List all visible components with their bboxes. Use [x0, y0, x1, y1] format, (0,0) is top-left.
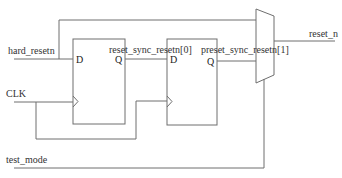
reset-sync-1-label: preset_sync_resetn[1]: [201, 44, 289, 55]
ff2-q-pin-label: Q: [207, 56, 215, 67]
test-mode-wire: [14, 79, 264, 168]
ff1-q-pin-label: Q: [115, 54, 123, 65]
ff2-d-pin-label: D: [170, 54, 177, 65]
reset-synchronizer-diagram: hard_resetn CLK test_mode reset_sync_res…: [0, 0, 342, 178]
test-mode-label: test_mode: [6, 154, 48, 165]
ff1-clock-triangle-icon: [73, 96, 78, 107]
ff1-d-pin-label: D: [76, 54, 83, 65]
ff2-clock-triangle-icon: [167, 96, 172, 107]
clk-label: CLK: [6, 88, 27, 99]
reset-n-label: reset_n: [309, 28, 338, 39]
hard-resetn-label: hard_resetn: [8, 45, 55, 56]
clk-branch-wire: [36, 101, 167, 139]
